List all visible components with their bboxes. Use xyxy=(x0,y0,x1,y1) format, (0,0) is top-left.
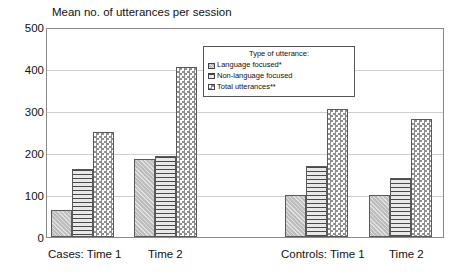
legend-swatch-icon-language-focused xyxy=(208,63,215,69)
legend-swatch-icon-total-utterances xyxy=(208,84,215,90)
bar-cases-t2-non-language-focused xyxy=(155,156,176,237)
chart-figure: Mean no. of utterances per session 500 4… xyxy=(0,0,456,275)
bar-controls-t2-non-language-focused xyxy=(390,178,411,237)
legend-item-total-utterances: Total utterances** xyxy=(208,82,350,93)
bar-controls-t2-total-utterances xyxy=(411,119,432,237)
legend-label-total-utterances: Total utterances** xyxy=(217,82,276,93)
x-label-controls-time-2: Time 2 xyxy=(389,248,424,260)
x-label-cases-time-1: Cases: Time 1 xyxy=(48,248,122,260)
gridline-300 xyxy=(47,112,443,113)
legend-label-non-language-focused: Non-language focused xyxy=(217,71,292,82)
y-tick-100: 100 xyxy=(4,191,44,203)
bar-controls-t1-non-language-focused xyxy=(306,166,327,237)
legend-label-language-focused: Language focused* xyxy=(217,60,282,71)
bar-cases-t2-language-focused xyxy=(134,159,155,237)
bar-cases-t1-language-focused xyxy=(51,210,72,237)
legend-item-non-language-focused: Non-language focused xyxy=(208,71,350,82)
bar-cases-t1-total-utterances xyxy=(93,132,114,237)
chart-legend: Type of utterance: Language focused* Non… xyxy=(203,46,355,97)
x-label-controls-time-1: Controls: Time 1 xyxy=(281,248,365,260)
y-tick-200: 200 xyxy=(4,149,44,161)
bar-controls-t1-total-utterances xyxy=(327,109,348,237)
y-tick-300: 300 xyxy=(4,107,44,119)
bar-cases-t1-non-language-focused xyxy=(72,169,93,237)
bar-controls-t2-language-focused xyxy=(369,195,390,237)
legend-item-language-focused: Language focused* xyxy=(208,60,350,71)
chart-title: Mean no. of utterances per session xyxy=(52,6,232,18)
x-label-cases-time-2: Time 2 xyxy=(148,248,183,260)
y-axis: 500 400 300 200 100 0 xyxy=(0,0,44,275)
y-tick-400: 400 xyxy=(4,65,44,77)
legend-title: Type of utterance: xyxy=(208,49,350,59)
y-tick-500: 500 xyxy=(4,23,44,35)
y-tick-0: 0 xyxy=(4,233,44,245)
bar-controls-t1-language-focused xyxy=(285,195,306,237)
legend-swatch-icon-non-language-focused xyxy=(208,73,215,79)
bar-cases-t2-total-utterances xyxy=(176,67,197,237)
